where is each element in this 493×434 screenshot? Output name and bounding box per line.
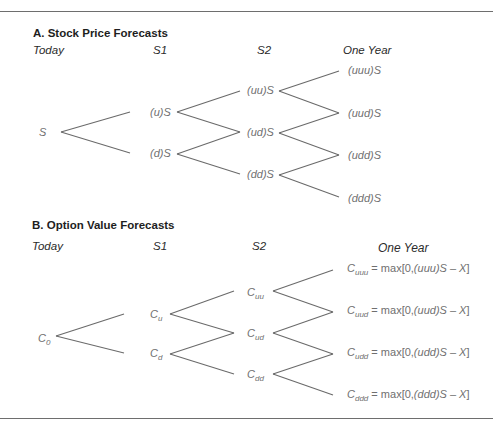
bottom-rule <box>0 418 493 419</box>
tree-branches <box>0 0 493 434</box>
